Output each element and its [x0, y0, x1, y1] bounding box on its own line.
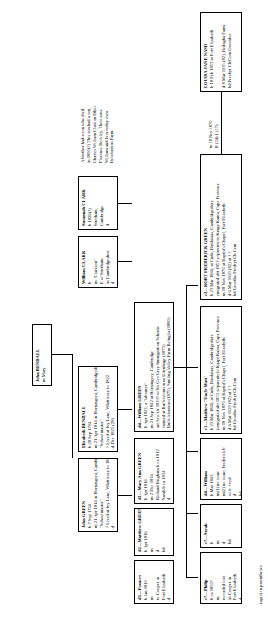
- connector-vline: [186, 513, 198, 514]
- box-line: Richard Brigham b ca 1812: [155, 442, 161, 500]
- box-line: bd Grootho Presbyt Ch Cem: [232, 158, 238, 296]
- box-line: d: [105, 180, 111, 226]
- box-frances-green[interactable]: d3—Frances b Jan 1819 m to Cooper in Por…: [134, 560, 174, 604]
- box-clark-note: A brother had a son who died in 1890(?) …: [78, 74, 118, 166]
- connector-hline: [186, 286, 187, 578]
- box-line: m(2) no issue; Frederick b: [221, 442, 227, 496]
- box-line: m 21 Apr 1814 in Horningsea, Cambridgesh…: [93, 370, 99, 448]
- box-william2-green[interactable]: d4—William b Mar 1843 m(1) no issue m(2)…: [200, 438, 242, 500]
- box-william-green[interactable]: d4—William GREEN b Apr 1823, a "labourer…: [134, 302, 174, 432]
- box-sarah-green[interactable]: e?—Sarah b m d bd: [200, 504, 242, 548]
- box-matthew-green[interactable]: d2—Matthew GREEN b Apr 1816 m d bd: [134, 508, 174, 556]
- marriage-label-line: m 18 Nov 1870: [208, 121, 214, 148]
- box-line: bd: [161, 512, 167, 552]
- connector-vline: [186, 577, 198, 578]
- ages-note: (ages) in parentheses: [258, 565, 264, 604]
- box-mary-ann-green[interactable]: d1—Mary Ann GREEN b Apr 1816 m 2 Dec 183…: [134, 438, 174, 504]
- box-line: bd: [172, 564, 174, 600]
- connector-vline: [118, 495, 132, 496]
- box-line: d Dec 1825 (28): [110, 370, 116, 448]
- box-line: bd: [238, 442, 242, 496]
- marriage-connector-line: [221, 92, 222, 154]
- box-line: d: [238, 556, 242, 600]
- box-elizabeth-bendall[interactable]: Elizabeth BENDALL b 28 Sep 1794 m 21 Apr…: [78, 366, 118, 452]
- box-louisa-jane-nash[interactable]: LOUISA JANE NASH b 18 Feb 1853 at Port E…: [200, 12, 242, 92]
- box-line: m 21 Apr 1814 in Horningsea, Cambridgesh…: [93, 462, 99, 528]
- box-line: bd: [227, 508, 233, 544]
- marriage-label-line: R (24) L (17): [214, 121, 220, 148]
- box-line: d: [110, 240, 116, 284]
- connector-vline: [186, 367, 198, 368]
- box-william-clark[interactable]: William CLARK b m "Clarkson" E of Streth…: [78, 236, 118, 288]
- box-john-bendall[interactable]: John BENDALL m Mary: [32, 324, 52, 386]
- connector-vline: [52, 354, 72, 355]
- box-line: bd Grootho Presbyt Ch Cem: [232, 310, 238, 430]
- box-line: d: [166, 442, 172, 500]
- box-line: Belafontein Farm.: [109, 77, 115, 163]
- family-tree-chart: John BENDALL m Mary John GREEN b 7 Sep 1…: [26, 0, 268, 618]
- box-line: ? Lived at Ivy Lane, Whittlesey to 1822: [105, 462, 111, 528]
- box-matthew-uncle-matt[interactable]: e1—Matthew "Uncle Matt" b 23 Mar 1846, a…: [200, 306, 242, 434]
- chart-canvas: John BENDALL m Mary John GREEN b 7 Sep 1…: [26, 0, 268, 618]
- connector-vline: [118, 203, 132, 204]
- box-line: (emigrated abt 1853 w/parents to Kaapt K…: [215, 310, 221, 430]
- connector-vline: [118, 409, 132, 410]
- box-john-green[interactable]: John GREEN b 7 Sep 1794 m 21 Apr 1814 in…: [78, 458, 118, 532]
- box-line: bd Presbyt Ch/Cem Grootdoe: [227, 16, 233, 88]
- box-line: d: [110, 462, 116, 528]
- marriage-label: m 18 Nov 1870 R (24) L (17): [208, 121, 219, 148]
- box-line: m Mary: [41, 328, 47, 382]
- connector-vline: [186, 451, 198, 452]
- connector-vline: [174, 367, 186, 368]
- box-susannah-clark[interactable]: Susannah CLARK b 1826(?) Stretham, Cambr…: [78, 176, 118, 230]
- box-line: d 8 Mar 1935 (82), Bedagha Farm: [221, 16, 227, 88]
- connector-hline: [72, 354, 73, 458]
- box-robt-frederick-green[interactable]: e2—ROBT FREDERICK GREEN b 23 Mar 1846, a…: [200, 154, 242, 300]
- connector-vline: [186, 285, 198, 286]
- box-philip-green[interactable]: e?—Philip b ca 1850? m recorded lost in …: [200, 552, 242, 604]
- connector-vline: [118, 261, 132, 262]
- box-title: d2—Matthew GREEN: [137, 512, 143, 552]
